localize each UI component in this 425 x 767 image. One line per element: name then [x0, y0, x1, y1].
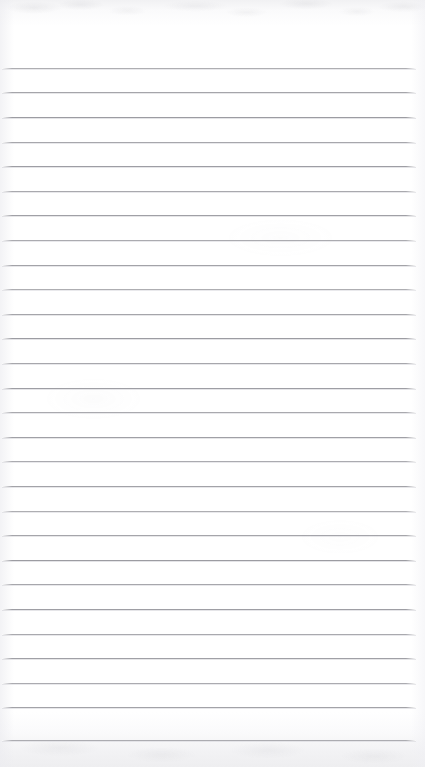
rule-line [2, 314, 416, 315]
rule-line [2, 166, 416, 167]
rule-line [2, 740, 416, 741]
rule-line [2, 609, 416, 610]
rule-line [2, 265, 416, 266]
rule-line [2, 511, 416, 512]
rule-line [2, 412, 416, 413]
rule-line [2, 634, 416, 635]
rule-line [2, 68, 416, 69]
rule-line [2, 191, 416, 192]
rule-line [2, 142, 416, 143]
rule-line [2, 338, 416, 339]
rule-line [2, 92, 416, 93]
rule-line [2, 240, 416, 241]
rule-line [2, 584, 416, 585]
scanned-page [0, 0, 425, 767]
rule-line [2, 461, 416, 462]
rule-line [2, 560, 416, 561]
rule-line [2, 658, 416, 659]
rule-line [2, 486, 416, 487]
rule-line [2, 117, 416, 118]
rule-line [2, 215, 416, 216]
rule-line [2, 437, 416, 438]
rule-line [2, 388, 416, 389]
rule-line [2, 535, 416, 536]
ruled-lines-layer [0, 0, 425, 767]
rule-line [2, 289, 416, 290]
rule-line [2, 363, 416, 364]
rule-line [2, 707, 416, 708]
rule-line [2, 683, 416, 684]
